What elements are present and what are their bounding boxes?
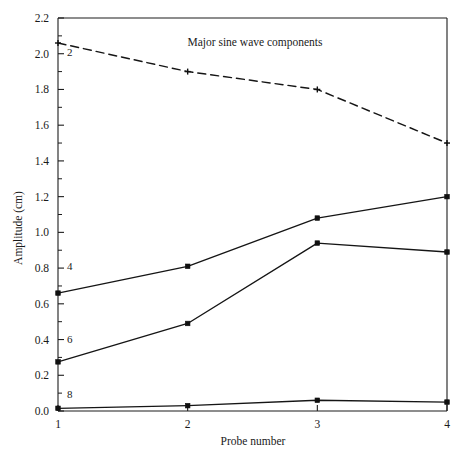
data-point-marker — [445, 194, 450, 199]
series-line-8 — [58, 400, 447, 408]
y-tick-label: 0.2 — [35, 369, 50, 381]
series-markers — [55, 40, 450, 411]
series-label-2: 2 — [67, 46, 73, 58]
y-tick-label: 1.4 — [35, 155, 50, 167]
data-point-marker — [56, 360, 61, 365]
data-point-marker — [185, 403, 190, 408]
data-point-marker — [314, 86, 320, 92]
data-point-marker — [445, 250, 450, 255]
y-tick-label: 2.2 — [35, 12, 50, 24]
series-line-6 — [58, 243, 447, 362]
axis-ticks — [58, 18, 447, 411]
y-axis-title: Amplitude (cm) — [12, 191, 25, 265]
y-tick-label: 1.0 — [35, 226, 50, 238]
x-axis-title: Probe number — [221, 435, 286, 447]
series-lines — [58, 43, 447, 408]
data-point-marker — [55, 40, 61, 46]
data-point-marker — [315, 241, 320, 246]
chart-title: Major sine wave components — [187, 36, 323, 49]
x-tick-label: 4 — [444, 418, 450, 430]
data-point-marker — [444, 140, 450, 146]
y-tick-label: 1.8 — [35, 83, 50, 95]
y-tick-label: 1.2 — [35, 191, 50, 203]
data-point-marker — [185, 69, 191, 75]
series-label-4: 4 — [67, 260, 73, 272]
series-inline-labels: 2468 — [67, 46, 73, 400]
y-tick-label: 0.4 — [35, 334, 50, 346]
x-tick-label: 1 — [55, 418, 61, 430]
x-tick-label: 3 — [314, 418, 320, 430]
series-line-2 — [58, 43, 447, 143]
x-axis-tick-labels: 1234 — [55, 418, 450, 430]
series-label-6: 6 — [67, 333, 73, 345]
y-tick-label: 0.6 — [35, 298, 50, 310]
data-point-marker — [185, 264, 190, 269]
chart-container: 0.00.20.40.60.81.01.21.41.61.82.02.2 123… — [0, 0, 460, 453]
y-tick-label: 1.6 — [35, 119, 50, 131]
data-point-marker — [315, 398, 320, 403]
data-point-marker — [56, 406, 61, 411]
data-point-marker — [445, 400, 450, 405]
data-point-marker — [315, 216, 320, 221]
y-tick-label: 2.0 — [35, 48, 50, 60]
series-line-4 — [58, 197, 447, 293]
x-tick-label: 2 — [185, 418, 191, 430]
y-tick-label: 0.8 — [35, 262, 50, 274]
y-axis-tick-labels: 0.00.20.40.60.81.01.21.41.61.82.02.2 — [35, 12, 50, 417]
data-point-marker — [56, 291, 61, 296]
line-chart: 0.00.20.40.60.81.01.21.41.61.82.02.2 123… — [0, 0, 460, 453]
series-label-8: 8 — [67, 388, 73, 400]
data-point-marker — [185, 321, 190, 326]
y-tick-label: 0.0 — [35, 405, 50, 417]
axes — [58, 18, 447, 411]
